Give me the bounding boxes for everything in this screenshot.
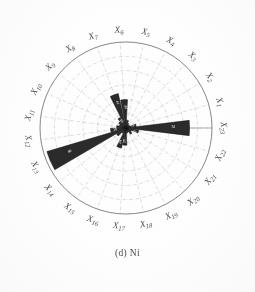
axis-label-x18: X18	[139, 218, 152, 229]
axis-label-x23: X23	[219, 121, 229, 134]
axis-label-x17: X17	[113, 221, 126, 231]
axis-label-index: 23	[218, 127, 226, 134]
figure-panel-d-ni: X1X2X3X4X5X6X7X8X9X10X11X12X13X14X15X16X…	[0, 0, 255, 292]
axis-label-x5: X5	[141, 27, 151, 37]
axis-label-index: 6	[120, 28, 124, 35]
axis-label-x6: X6	[115, 25, 124, 35]
polar-bar-x13	[47, 128, 126, 170]
axis-label-index: 18	[145, 221, 153, 229]
polar-bars	[47, 94, 190, 170]
figure-caption: (d) Ni	[0, 248, 255, 258]
axis-label-index: 17	[118, 224, 125, 231]
polar-bar-x23	[126, 120, 190, 135]
axis-label-x12: X12	[23, 134, 35, 148]
